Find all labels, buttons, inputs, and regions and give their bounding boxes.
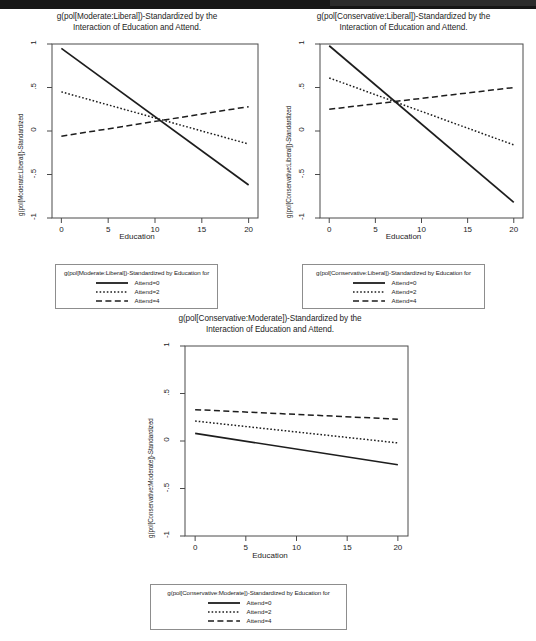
plot-frame — [320, 44, 523, 218]
legend-box: g(pol[Conservative:Liberal])-Standardize… — [302, 264, 485, 309]
legend-line-key-solid — [207, 599, 241, 607]
x-tick-label: 0 — [314, 225, 344, 234]
x-tick-label: 20 — [234, 225, 264, 234]
legend-box: g(pol[Conservative:Moderate])-Standardiz… — [150, 584, 347, 630]
plot-area: g(pol[Conservative:Liberal])-Standardize… — [276, 36, 531, 251]
legend-entry-label: Attend=2 — [247, 608, 291, 615]
legend-entries: Attend=0Attend=2Attend=4 — [303, 278, 484, 305]
legend-line-key-dashed — [207, 617, 241, 625]
x-tick-label: 0 — [46, 225, 76, 234]
legend-entry-label: Attend=0 — [135, 279, 179, 286]
x-tick-label: 15 — [332, 543, 362, 552]
x-tick-label: 5 — [360, 225, 390, 234]
x-tick-label: 10 — [407, 225, 437, 234]
plot-canvas — [276, 36, 531, 251]
series-line-attend-2 — [195, 421, 398, 443]
legend-row: Attend=4 — [56, 296, 217, 305]
plot-area: g(pol[Conservative:Moderate])-Standardiz… — [125, 338, 415, 570]
scan-artifact-bar-right — [330, 0, 536, 6]
legend-row: Attend=2 — [303, 287, 484, 296]
series-line-attend-4 — [329, 88, 514, 110]
y-tick-label: -.5 — [297, 162, 306, 184]
y-tick-label: -.5 — [29, 162, 38, 184]
legend-entry-label: Attend=2 — [392, 288, 436, 295]
series-line-attend-0 — [329, 46, 514, 203]
x-tick-label: 20 — [499, 225, 529, 234]
y-tick-label: 0 — [29, 119, 38, 141]
y-tick-label: 0 — [162, 429, 171, 451]
y-tick-label: .5 — [297, 75, 306, 97]
legend-entry-label: Attend=0 — [247, 599, 291, 606]
legend-row: Attend=2 — [151, 607, 346, 616]
plot-area: g(pol[Moderate:Liberal])-Standardized Ed… — [8, 36, 266, 251]
x-axis-label: Education — [125, 551, 415, 560]
legend-line-key-solid — [352, 279, 386, 287]
y-tick-label: .5 — [29, 75, 38, 97]
legend-entries: Attend=0Attend=2Attend=4 — [151, 598, 346, 625]
legend-row: Attend=0 — [151, 598, 346, 607]
legend-line-key-dotted — [95, 288, 129, 296]
chart-title: g(pol[Conservative:Moderate])-Standardiz… — [125, 314, 415, 335]
y-tick-label: -.5 — [162, 476, 171, 498]
legend-line-key-dotted — [207, 608, 241, 616]
legend-box: g(pol[Moderate:Liberal])-Standardized by… — [55, 264, 218, 309]
legend-title: g(pol[Conservative:Liberal])-Standardize… — [303, 265, 484, 276]
y-tick-label: -1 — [29, 206, 38, 228]
legend-line-key-dotted — [352, 288, 386, 296]
legend-row: Attend=4 — [151, 616, 346, 625]
legend-line-key-solid — [95, 279, 129, 287]
legend-row: Attend=4 — [303, 296, 484, 305]
legend-title: g(pol[Conservative:Moderate])-Standardiz… — [151, 585, 346, 596]
chart-panel-conservative-moderate: g(pol[Conservative:Moderate])-Standardiz… — [125, 314, 415, 634]
x-tick-label: 10 — [140, 225, 170, 234]
y-tick-label: 1 — [297, 32, 306, 54]
x-tick-label: 5 — [231, 543, 261, 552]
series-line-attend-4 — [195, 410, 398, 420]
legend-row: Attend=2 — [56, 287, 217, 296]
series-line-attend-0 — [61, 48, 248, 185]
x-tick-label: 10 — [282, 543, 312, 552]
x-tick-label: 15 — [187, 225, 217, 234]
legend-line-key-dashed — [95, 297, 129, 305]
x-tick-label: 15 — [453, 225, 483, 234]
y-tick-label: -1 — [297, 206, 306, 228]
chart-panel-moderate-liberal: g(pol[Moderate:Liberal])-Standardized by… — [8, 12, 266, 302]
chart-title: g(pol[Conservative:Liberal])-Standardize… — [276, 12, 531, 33]
plot-canvas — [8, 36, 266, 251]
legend-entry-label: Attend=2 — [135, 288, 179, 295]
plot-frame — [52, 44, 258, 218]
y-tick-label: .5 — [162, 381, 171, 403]
x-tick-label: 5 — [93, 225, 123, 234]
legend-entry-label: Attend=4 — [392, 297, 436, 304]
legend-entries: Attend=0Attend=2Attend=4 — [56, 278, 217, 305]
legend-entry-label: Attend=4 — [247, 617, 291, 624]
legend-entry-label: Attend=0 — [392, 279, 436, 286]
legend-row: Attend=0 — [56, 278, 217, 287]
series-line-attend-2 — [61, 92, 248, 144]
series-line-attend-2 — [329, 78, 514, 145]
y-tick-label: 0 — [297, 119, 306, 141]
chart-title: g(pol[Moderate:Liberal])-Standardized by… — [8, 12, 266, 33]
x-tick-label: 20 — [383, 543, 413, 552]
series-line-attend-0 — [195, 433, 398, 464]
x-tick-label: 0 — [180, 543, 210, 552]
chart-panel-conservative-liberal: g(pol[Conservative:Liberal])-Standardize… — [276, 12, 531, 302]
y-tick-label: 1 — [162, 334, 171, 356]
legend-entry-label: Attend=4 — [135, 297, 179, 304]
y-tick-label: -1 — [162, 524, 171, 546]
legend-line-key-dashed — [352, 297, 386, 305]
legend-title: g(pol[Moderate:Liberal])-Standardized by… — [56, 265, 217, 276]
y-tick-label: 1 — [29, 32, 38, 54]
series-line-attend-4 — [61, 107, 248, 137]
legend-row: Attend=0 — [303, 278, 484, 287]
